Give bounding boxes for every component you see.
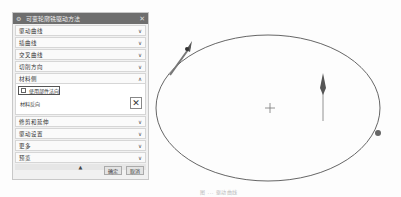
material-side-body: 使用部件法向 材料反向 ✕ <box>15 84 146 115</box>
reverse-direction-icon: ✕ <box>132 98 140 108</box>
chevron-down-icon: ∨ <box>138 131 142 137</box>
section-label: 驱动设置 <box>19 130 138 138</box>
section-label: 切削方向 <box>19 63 138 71</box>
section-label: 交叉曲线 <box>19 51 138 59</box>
use-part-normal-checkbox[interactable]: 使用部件法向 <box>18 86 60 95</box>
chevron-down-icon: ∨ <box>138 28 142 34</box>
chevron-down-icon: ∨ <box>138 40 142 46</box>
center-crosshair-icon <box>265 103 275 113</box>
section-insert-curve[interactable]: 插曲线 ∨ <box>15 37 146 48</box>
gear-icon: ⚙ <box>16 15 23 22</box>
chevron-up-icon: ∧ <box>138 76 142 82</box>
endpoint-dot-icon <box>375 130 381 136</box>
section-cross-curve[interactable]: 交叉曲线 ∨ <box>15 49 146 60</box>
chevron-down-icon: ∨ <box>138 143 142 149</box>
section-drive-curve[interactable]: 驱动曲线 ∨ <box>15 25 146 36</box>
reverse-material-button[interactable]: ✕ <box>130 97 142 109</box>
normal-arrow-icon <box>320 73 326 121</box>
chevron-down-icon: ∨ <box>138 52 142 58</box>
section-label: 插曲线 <box>19 39 138 47</box>
drive-method-dialog: ⚙ 可变轮廓铣驱动方法 ✕ 驱动曲线 ∨ 插曲线 ∨ 交叉曲线 ∨ 切削方向 ∨… <box>12 12 149 180</box>
cancel-button[interactable]: 取消 <box>126 166 144 175</box>
graphics-viewport[interactable] <box>150 0 401 197</box>
reverse-material-label: 材料反向 <box>20 100 40 107</box>
section-drive-settings[interactable]: 驱动设置 ∨ <box>15 128 146 139</box>
tangent-arrow-icon <box>170 41 192 75</box>
collapse-arrow-icon: ▲ <box>79 164 83 170</box>
dialog-title: 可变轮廓铣驱动方法 <box>23 14 139 23</box>
section-label: 材料侧 <box>19 75 138 83</box>
section-preview[interactable]: 预览 ∨ <box>15 152 146 163</box>
section-cut-direction[interactable]: 切削方向 ∨ <box>15 61 146 72</box>
section-label: 更多 <box>19 142 138 150</box>
ok-button[interactable]: 确定 <box>104 166 122 175</box>
checkbox-label: 使用部件法向 <box>29 87 59 94</box>
section-label: 驱动曲线 <box>19 27 138 35</box>
close-icon[interactable]: ✕ <box>139 15 145 23</box>
dialog-footer: 确定 取消 <box>104 166 144 175</box>
section-label: 预览 <box>19 154 138 162</box>
section-label: 修剪和延伸 <box>19 118 138 126</box>
chevron-down-icon: ∨ <box>138 64 142 70</box>
figure-caption: 图 ... 驱动曲线 <box>200 188 238 195</box>
section-trim-extend[interactable]: 修剪和延伸 ∨ <box>15 116 146 127</box>
section-more[interactable]: 更多 ∨ <box>15 140 146 151</box>
chevron-down-icon: ∨ <box>138 119 142 125</box>
dialog-titlebar: ⚙ 可变轮廓铣驱动方法 ✕ <box>13 13 148 24</box>
chevron-down-icon: ∨ <box>138 155 142 161</box>
checkbox-icon[interactable] <box>21 88 26 93</box>
section-material-side[interactable]: 材料侧 ∧ <box>15 73 146 84</box>
